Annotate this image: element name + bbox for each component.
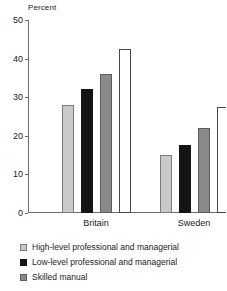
legend-label: Skilled manual bbox=[32, 273, 87, 282]
legend-swatch-skilled-icon bbox=[20, 274, 27, 281]
legend-item: Low-level professional and managerial bbox=[20, 255, 220, 269]
y-axis-tick-label: 10 bbox=[13, 169, 23, 179]
chart-legend: High-level professional and managerial L… bbox=[20, 240, 220, 285]
x-axis-category-label: Sweden bbox=[178, 218, 211, 228]
legend-swatch-high-icon bbox=[20, 244, 27, 251]
bar-britain-high bbox=[62, 105, 74, 213]
y-axis-tick-label: 50 bbox=[13, 15, 23, 25]
legend-label: Low-level professional and managerial bbox=[32, 258, 177, 267]
legend-label: High-level professional and managerial bbox=[32, 243, 179, 252]
y-axis-title: Percent bbox=[28, 3, 56, 12]
bar-sweden-unskilled bbox=[217, 107, 227, 213]
bar-sweden-high bbox=[160, 155, 172, 213]
bar-britain-low bbox=[81, 89, 93, 213]
bar-britain-unskilled bbox=[119, 49, 131, 213]
bar-sweden-low bbox=[179, 145, 191, 213]
bar-chart: Percent 01020304050 BritainSweden High-l… bbox=[0, 0, 226, 291]
legend-swatch-low-icon bbox=[20, 259, 27, 266]
y-axis-tick-label: 0 bbox=[18, 208, 23, 218]
y-axis-tick-mark bbox=[25, 213, 28, 214]
plot-area: 01020304050 bbox=[28, 20, 220, 213]
legend-item: Skilled manual bbox=[20, 270, 220, 284]
legend-item: High-level professional and managerial bbox=[20, 240, 220, 254]
bar-sweden-skilled bbox=[198, 128, 210, 213]
x-axis-category-label: Britain bbox=[83, 218, 109, 228]
bars-container bbox=[28, 20, 220, 213]
bar-britain-skilled bbox=[100, 74, 112, 213]
y-axis-tick-label: 20 bbox=[13, 131, 23, 141]
y-axis-tick-label: 40 bbox=[13, 54, 23, 64]
y-axis-tick-label: 30 bbox=[13, 92, 23, 102]
